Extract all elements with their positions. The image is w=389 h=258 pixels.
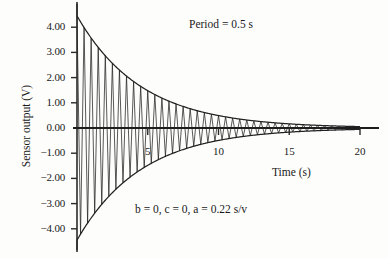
x-axis-title: Time (s): [272, 166, 311, 178]
xtick-label-20: 20: [348, 146, 372, 157]
ytick-label-4: 4.00: [25, 21, 65, 32]
plot-area: 4.00 3.00 2.00 1.00 0.00 −1.00 −2.00 −3.…: [0, 0, 389, 258]
chart-figure: 4.00 3.00 2.00 1.00 0.00 −1.00 −2.00 −3.…: [0, 0, 389, 258]
ytick-label-neg3: −3.00: [25, 198, 65, 209]
ytick-label-neg4: −4.00: [25, 223, 65, 234]
xtick-label-5: 5: [136, 146, 160, 157]
annotation-params: b = 0, c = 0, a = 0.22 s/v: [135, 203, 247, 215]
xtick-label-15: 15: [277, 146, 301, 157]
xtick-label-10: 10: [207, 146, 231, 157]
y-axis-title: Sensor output (V): [20, 56, 32, 196]
annotation-period: Period = 0.5 s: [189, 18, 253, 30]
